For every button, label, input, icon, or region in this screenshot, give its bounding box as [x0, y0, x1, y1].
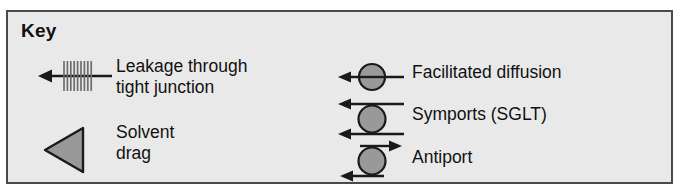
legend-label-leakage: Leakage through tight junction — [116, 56, 247, 98]
circle-with-left-arrow-icon — [336, 60, 408, 98]
legend-figure: Key Leakage through tight junct — [0, 0, 685, 196]
circle-with-opposing-arrows-icon — [336, 140, 408, 186]
legend-label-solvent-drag: Solvent drag — [116, 122, 174, 164]
circle-with-two-left-arrows-icon — [336, 98, 408, 144]
key-title: Key — [21, 20, 56, 42]
hatched-left-arrow-icon — [36, 56, 114, 100]
left-triangle-icon — [41, 124, 91, 180]
legend-label-facilitated-diffusion: Facilitated diffusion — [412, 62, 562, 83]
legend-label-antiport: Antiport — [412, 147, 472, 168]
key-box: Key Leakage through tight junct — [6, 10, 673, 184]
legend-label-symports: Symports (SGLT) — [412, 104, 547, 125]
